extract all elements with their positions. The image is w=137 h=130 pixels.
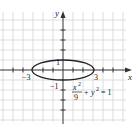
equation-numerator-exponent: 2 <box>78 81 81 87</box>
y-axis-arrow-icon <box>61 11 66 18</box>
ellipse-graph: y x −3 3 1 −1 x 2 9 + y 2 = 1 <box>0 0 137 130</box>
equation-plus: + <box>84 88 89 97</box>
y-axis-label: y <box>54 8 59 18</box>
x-axis <box>0 68 132 73</box>
tick-label-x-3: 3 <box>94 73 98 82</box>
y-axis <box>61 11 66 124</box>
tick-label-x-neg3: −3 <box>22 73 31 82</box>
x-axis-label: x <box>127 72 132 82</box>
equation-denominator: 9 <box>74 93 78 102</box>
plot-canvas: y x −3 3 1 −1 x 2 9 + y 2 = 1 <box>0 0 137 130</box>
equation-label: x 2 9 + y 2 = 1 <box>72 81 112 102</box>
equation-numerator: x <box>72 83 77 92</box>
tick-label-y-1: 1 <box>56 58 60 67</box>
equation-y-exponent: 2 <box>96 86 99 92</box>
tick-label-y-neg1: −1 <box>50 82 59 91</box>
equation-y-term: y <box>90 88 95 97</box>
equation-equals-one: = 1 <box>101 88 112 97</box>
